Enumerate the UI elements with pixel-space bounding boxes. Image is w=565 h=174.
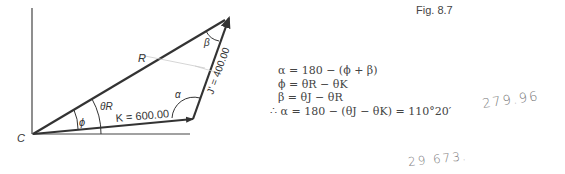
- theta-r-label: θR: [100, 101, 113, 112]
- phi-label: ϕ: [79, 116, 85, 128]
- equation-beta: β = θJ − θR: [270, 91, 451, 105]
- vector-k: [33, 119, 193, 134]
- alpha-label: α: [175, 89, 181, 100]
- beta-label: β: [203, 37, 210, 48]
- r-label: R: [138, 52, 146, 64]
- origin-label: C: [17, 132, 25, 144]
- equation-result: ∴ α = 180 − (θJ − θK) = 110°20′: [270, 105, 451, 119]
- equations: α = 180 − (ϕ + β) ϕ = θR − θK β = θJ − θ…: [270, 64, 451, 118]
- phi-arc: [74, 110, 78, 129]
- alpha-arc: [172, 97, 200, 118]
- figure-label: Fig. 8.7: [416, 4, 453, 16]
- j-label: J' = 400.00: [205, 46, 232, 96]
- equation-alpha: α = 180 − (ϕ + β): [270, 64, 451, 78]
- equation-phi: ϕ = θR − θK: [270, 78, 451, 92]
